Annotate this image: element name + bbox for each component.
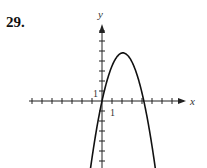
x-axis-label: x bbox=[189, 95, 195, 107]
y-tick-label: 1 bbox=[93, 88, 98, 99]
y-arrow-icon bbox=[99, 24, 105, 33]
x-arrow-icon bbox=[178, 98, 186, 104]
parabola-graph: x y 1 1 bbox=[0, 0, 207, 168]
x-tick-label: 1 bbox=[110, 107, 115, 118]
y-axis-label: y bbox=[97, 8, 103, 20]
